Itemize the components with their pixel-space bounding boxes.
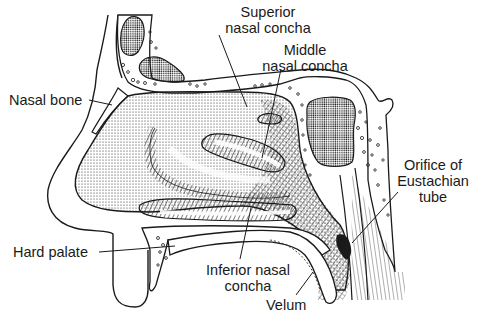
label-velum: Velum xyxy=(266,297,306,313)
label-orifice-eustachian-tube: Orifice of Eustachian tube xyxy=(393,157,473,205)
label-line: Superior xyxy=(216,4,320,20)
label-line: Hard palate xyxy=(13,244,88,260)
label-nasal-bone: Nasal bone xyxy=(9,92,82,108)
label-line: concha xyxy=(193,278,303,294)
label-hard-palate: Hard palate xyxy=(13,244,88,260)
label-line: tube xyxy=(393,189,473,205)
label-line: Velum xyxy=(266,297,306,313)
label-line: Middle xyxy=(253,42,357,58)
label-superior-nasal-concha: Superior nasal concha xyxy=(216,4,320,36)
label-middle-nasal-concha: Middle nasal concha xyxy=(253,42,357,74)
label-line: nasal concha xyxy=(253,58,357,74)
label-inferior-nasal-concha: Inferior nasal concha xyxy=(193,262,303,294)
label-line: nasal concha xyxy=(216,20,320,36)
label-line: Inferior nasal xyxy=(193,262,303,278)
label-line: Nasal bone xyxy=(9,92,82,108)
label-line: Orifice of xyxy=(393,157,473,173)
label-line: Eustachian xyxy=(393,173,473,189)
nasal-cavity-diagram: Superior nasal concha Middle nasal conch… xyxy=(0,0,480,327)
